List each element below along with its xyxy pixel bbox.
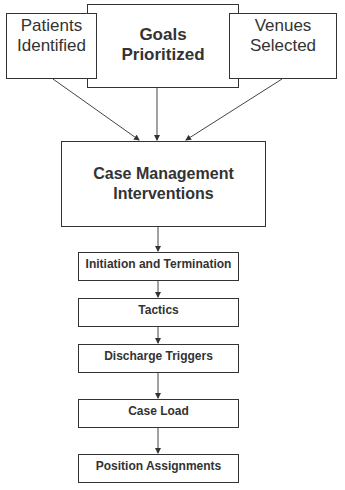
box-label-line: Selected <box>250 36 316 56</box>
venues-selected-box: VenuesSelected <box>229 13 337 79</box>
step-tactics: Tactics <box>78 298 239 327</box>
step-position-assignments: Position Assignments <box>78 454 239 483</box>
step-label: Case Load <box>128 404 189 418</box>
step-discharge-triggers: Discharge Triggers <box>78 344 239 373</box>
arrow-patients-to-case <box>53 79 139 140</box>
box-label-line: Case Management <box>93 164 234 184</box>
box-label-line: Identified <box>17 36 86 56</box>
box-label-line: Venues <box>250 16 316 36</box>
arrow-venues-to-case <box>186 79 282 140</box>
box-label-line: Interventions <box>93 184 234 204</box>
step-label: Position Assignments <box>96 459 222 473</box>
step-label: Discharge Triggers <box>104 349 213 363</box>
step-label: Initiation and Termination <box>86 257 232 271</box>
step-case-load: Case Load <box>78 399 239 428</box>
box-label-line: Goals <box>121 25 204 45</box>
step-initiation-and-termination: Initiation and Termination <box>78 252 239 281</box>
goals-prioritized-box: GoalsPrioritized <box>87 4 239 88</box>
step-label: Tactics <box>138 303 178 317</box>
box-label-line: Patients <box>17 16 86 36</box>
box-label-line: Prioritized <box>121 45 204 65</box>
case-management-interventions-box: Case ManagementInterventions <box>61 141 266 227</box>
patients-identified-box: PatientsIdentified <box>6 13 97 79</box>
